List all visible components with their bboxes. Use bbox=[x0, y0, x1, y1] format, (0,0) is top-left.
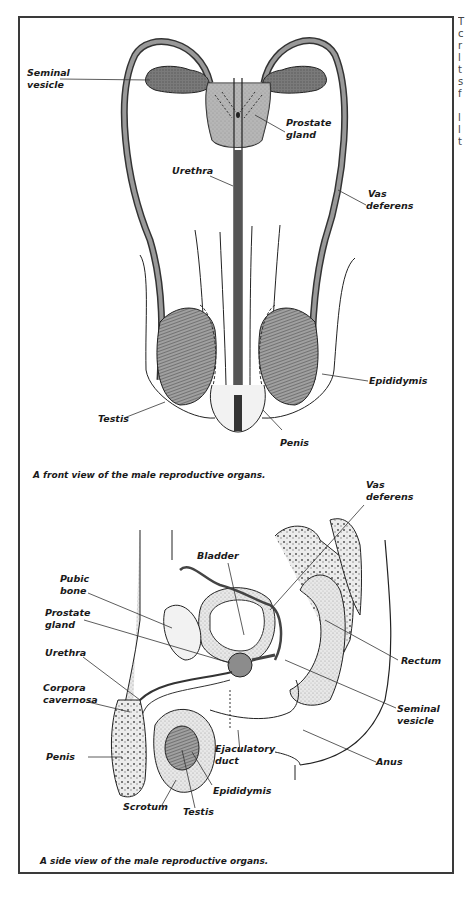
label-rectum: Rectum bbox=[401, 655, 441, 666]
label-penis: Penis bbox=[280, 437, 309, 448]
label-epididymis: Epididymis bbox=[369, 375, 428, 386]
label-testis: Testis bbox=[98, 413, 129, 424]
label-pubic-bone: bone bbox=[60, 585, 87, 596]
label-vas-deferens: Vas bbox=[368, 188, 387, 199]
label-testis: Testis bbox=[183, 806, 214, 817]
label-prostate-gland: Prostate bbox=[286, 117, 332, 128]
label-penis: Penis bbox=[46, 751, 75, 762]
caption-side-view: A side view of the male reproductive org… bbox=[39, 856, 268, 866]
label-corpora-cavernosa: cavernosa bbox=[43, 694, 98, 705]
label-seminal-vesicle: Seminal bbox=[27, 67, 71, 78]
label-scrotum: Scrotum bbox=[123, 801, 168, 812]
side-view-illustration: Vas deferens Bladder Pubic bone Prostate… bbox=[39, 479, 441, 866]
label-pubic-bone: Pubic bbox=[60, 573, 89, 584]
caption-front-view: A front view of the male reproductive or… bbox=[32, 470, 266, 480]
anatomy-diagram: Seminal vesicle Prostate gland Urethra V… bbox=[0, 0, 470, 898]
label-prostate-gland: gland bbox=[45, 619, 75, 630]
label-urethra: Urethra bbox=[172, 165, 213, 176]
label-seminal-vesicle: Seminal bbox=[397, 703, 441, 714]
label-anus: Anus bbox=[375, 756, 403, 767]
label-prostate-gland: Prostate bbox=[45, 607, 91, 618]
label-ejaculatory-duct: duct bbox=[215, 755, 239, 766]
label-vas-deferens: deferens bbox=[366, 200, 414, 211]
label-vas-deferens: Vas bbox=[366, 479, 385, 490]
label-prostate-gland: gland bbox=[286, 129, 316, 140]
label-corpora-cavernosa: Corpora bbox=[43, 682, 86, 693]
label-ejaculatory-duct: Ejaculatory bbox=[215, 743, 276, 754]
label-urethra: Urethra bbox=[45, 647, 86, 658]
label-bladder: Bladder bbox=[197, 550, 240, 561]
label-epididymis: Epididymis bbox=[213, 785, 272, 796]
front-view-illustration: Seminal vesicle Prostate gland Urethra V… bbox=[27, 41, 428, 480]
label-vas-deferens: deferens bbox=[366, 491, 414, 502]
label-seminal-vesicle: vesicle bbox=[397, 715, 434, 726]
label-seminal-vesicle: vesicle bbox=[27, 79, 64, 90]
